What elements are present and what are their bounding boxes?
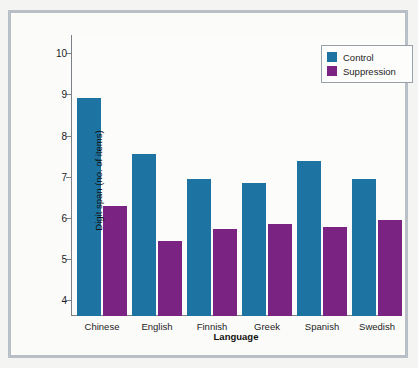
- y-axis-tick-label: 5: [61, 253, 67, 264]
- legend-label: Control: [343, 52, 374, 63]
- y-axis-title: Digit span (no. of items): [93, 81, 104, 281]
- bar-finnish-control: [187, 179, 211, 316]
- bar-english-suppression: [158, 241, 182, 316]
- bar-english-control: [132, 154, 156, 316]
- y-axis-line: [71, 35, 72, 316]
- legend-item-suppression[interactable]: Suppression: [327, 64, 407, 78]
- bar-spanish-suppression: [323, 227, 347, 316]
- y-axis-tick-label: 4: [61, 294, 67, 305]
- bar-greek-control: [242, 183, 266, 316]
- y-axis-tick-label: 8: [61, 130, 67, 141]
- legend-swatch-icon: [327, 52, 337, 62]
- bar-finnish-suppression: [213, 229, 237, 316]
- legend-item-control[interactable]: Control: [327, 50, 407, 64]
- legend-label: Suppression: [343, 66, 396, 77]
- figure-root: and the results showed a reliable effect…: [0, 0, 418, 368]
- y-axis-tick-label: 6: [61, 212, 67, 223]
- bar-swedish-suppression: [378, 220, 402, 316]
- y-axis-tick-label: 10: [56, 48, 67, 59]
- legend-swatch-icon: [327, 66, 337, 76]
- bar-swedish-control: [352, 179, 376, 316]
- y-axis-tick-label: 9: [61, 89, 67, 100]
- x-axis-title: Language: [71, 331, 401, 342]
- y-axis-tick-label: 7: [61, 171, 67, 182]
- chart-legend: ControlSuppression: [321, 45, 413, 83]
- bar-greek-suppression: [268, 224, 292, 316]
- bar-chinese-suppression: [103, 206, 127, 316]
- bar-spanish-control: [297, 161, 321, 316]
- figure-frame: 45678910 ChineseEnglishFinnishGreekSpani…: [8, 10, 408, 358]
